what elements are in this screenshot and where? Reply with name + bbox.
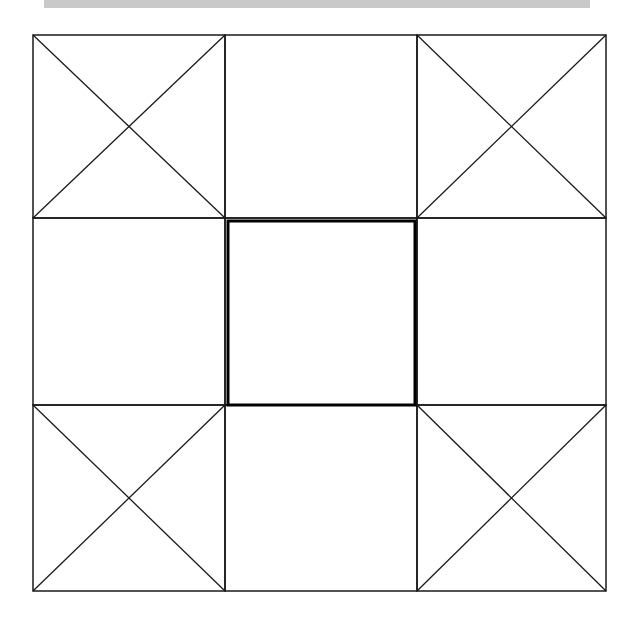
grid-diagram	[0, 0, 639, 626]
cell-top-left	[33, 35, 225, 218]
cell-border	[417, 218, 606, 405]
cell-top-right	[417, 35, 606, 218]
cell-bottom-right	[417, 405, 606, 591]
cell-middle-left	[33, 218, 225, 405]
cell-center	[225, 218, 417, 405]
cell-border	[33, 218, 225, 405]
cell-border	[225, 405, 417, 591]
center-bold-square	[228, 221, 415, 405]
cell-border	[225, 218, 417, 405]
cell-bottom-left	[33, 405, 225, 591]
center-square-layer	[228, 221, 415, 405]
cell-top-middle	[225, 35, 417, 218]
cell-middle-right	[417, 218, 606, 405]
cell-bottom-middle	[225, 405, 417, 591]
cell-border	[225, 35, 417, 218]
grid-cells	[33, 35, 606, 591]
